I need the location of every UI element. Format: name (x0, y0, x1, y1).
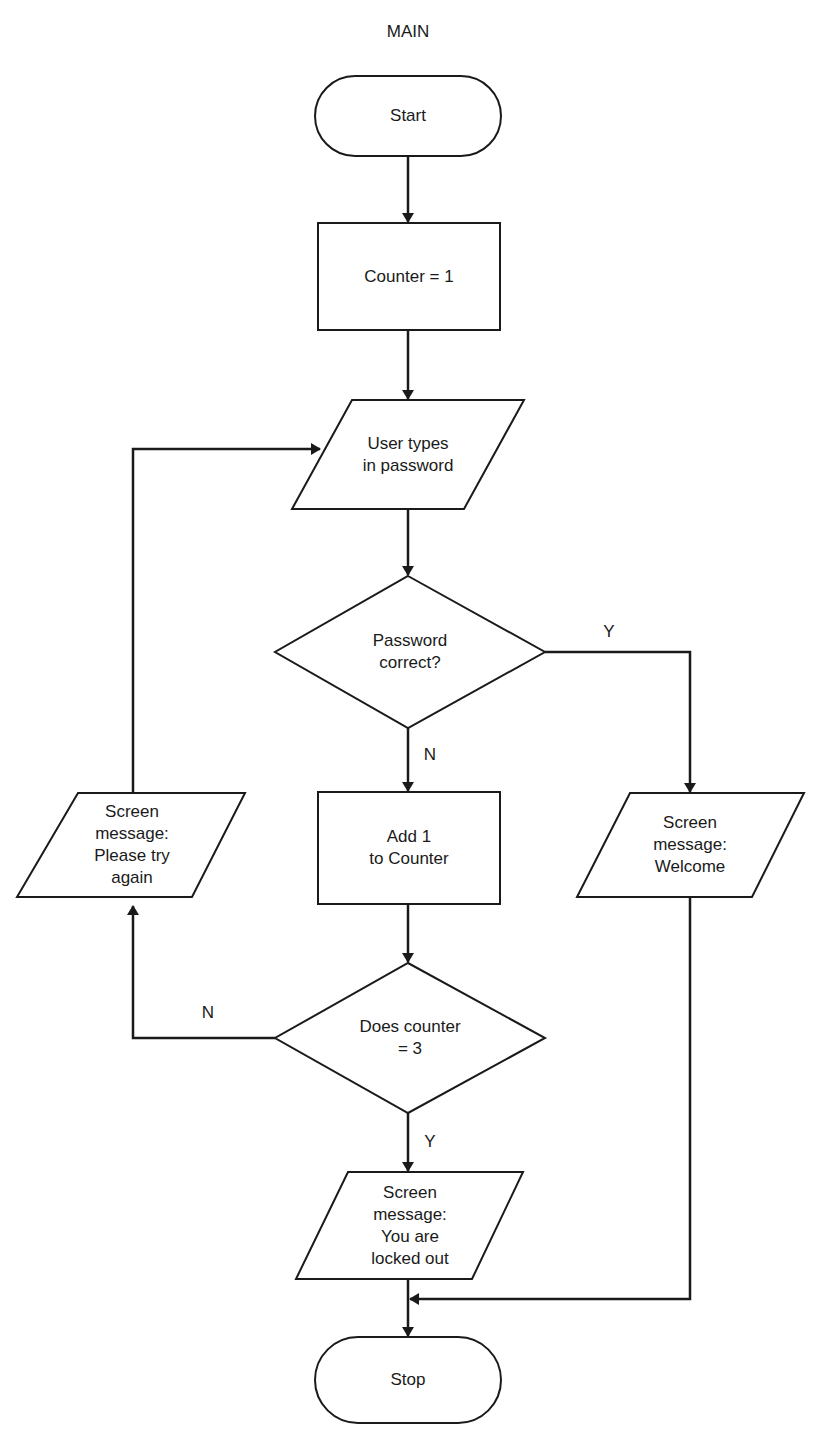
edge-label-pw-yes: Y (603, 622, 614, 642)
add-counter-label: Add 1 to Counter (369, 826, 448, 870)
counter-check-label: Does counter = 3 (359, 1016, 460, 1060)
password-correct-label: Password correct? (373, 630, 448, 674)
password-input-label: User types in password (363, 433, 454, 477)
retry-message-label: Screen message: Please try again (94, 801, 170, 889)
edge-label-pw-no: N (424, 745, 436, 765)
start-label: Start (390, 105, 426, 127)
diagram-title: MAIN (387, 22, 430, 42)
connector-retry-input (133, 449, 320, 793)
locked-message-label: Screen message: You are locked out (371, 1182, 449, 1270)
connector-pw-yes (545, 652, 690, 792)
edge-label-count-no: N (202, 1003, 214, 1023)
welcome-message-label: Screen message: Welcome (653, 812, 727, 878)
counter-init-label: Counter = 1 (364, 266, 453, 288)
edge-label-count-yes: Y (424, 1132, 435, 1152)
stop-label: Stop (391, 1369, 426, 1391)
